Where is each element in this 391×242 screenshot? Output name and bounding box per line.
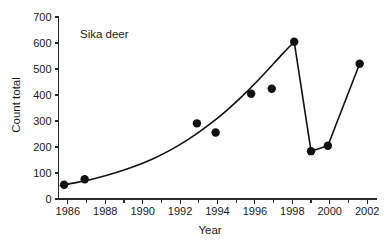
data-point-marker [247, 90, 255, 98]
x-axis-tick-label: 1992 [168, 205, 192, 217]
connector-line [294, 42, 359, 151]
x-axis-tick-label: 1994 [205, 205, 229, 217]
data-point-marker [60, 181, 68, 189]
y-axis-tick-labels: 0100200300400500600700 [33, 11, 51, 205]
x-axis-tick-labels: 198619881990199219941996199820002002 [56, 205, 380, 217]
y-axis-tick-label: 100 [33, 167, 51, 179]
data-point-marker [307, 147, 315, 155]
x-axis-tick-label: 1996 [243, 205, 267, 217]
data-point-marker [290, 38, 298, 46]
x-axis-tick-label: 2002 [355, 205, 379, 217]
y-axis-tick-label: 400 [33, 89, 51, 101]
chart-figure: 0100200300400500600700 19861988199019921… [0, 0, 391, 242]
x-axis-tick-label: 1990 [130, 205, 154, 217]
x-axis-tick-label: 1998 [280, 205, 304, 217]
y-axis-tick-label: 500 [33, 63, 51, 75]
chart-plot-area: 0100200300400500600700 19861988199019921… [0, 0, 391, 242]
y-axis-tick-label: 0 [45, 193, 51, 205]
y-axis-tick-label: 300 [33, 115, 51, 127]
x-axis-title: Year [198, 224, 221, 236]
y-axis-tick-label: 600 [33, 37, 51, 49]
axes-group [59, 17, 377, 199]
data-point-marker [211, 128, 219, 136]
trend-fit-curve [60, 42, 294, 186]
data-point-marker [268, 85, 276, 93]
data-point-marker [80, 175, 88, 183]
data-point-marker [355, 60, 363, 68]
data-point-marker [193, 119, 201, 127]
x-axis-tick-label: 2000 [317, 205, 341, 217]
x-axis-tick-label: 1986 [56, 205, 80, 217]
series-annotation-label: Sika deer [80, 28, 129, 40]
x-axis-tick-label: 1988 [93, 205, 117, 217]
y-axis-tick-label: 200 [33, 141, 51, 153]
y-axis-title: Count total [10, 77, 22, 133]
y-axis-tick-label: 700 [33, 11, 51, 23]
x-axis-ticks [68, 199, 367, 204]
data-point-markers [60, 38, 364, 189]
y-axis-ticks [55, 17, 59, 199]
data-point-marker [324, 142, 332, 150]
